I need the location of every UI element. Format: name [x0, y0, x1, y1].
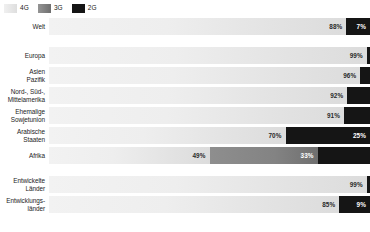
- chart-row: Europa99%1%: [0, 47, 370, 64]
- segment-value-label: 88%: [329, 23, 346, 30]
- segment-value-label: 99%: [350, 52, 367, 59]
- chart-row: ArabischeStaaten70%25%: [0, 127, 370, 144]
- stacked-bar: 92%7%: [49, 87, 370, 104]
- chart-row: Welt88%7%: [0, 18, 370, 35]
- chart-row: Afrika49%33%16%: [0, 147, 370, 164]
- stacked-bar: 91%8%: [49, 107, 370, 124]
- row-label-line: Entwicklungs-: [0, 197, 45, 204]
- chart-row: EntwickelteLänder99%1%: [0, 176, 370, 193]
- legend-item-2g: 2G: [72, 4, 97, 13]
- bar-segment-2g: 16%: [318, 147, 370, 164]
- segment-value-label: 99%: [350, 181, 367, 188]
- row-label: Welt: [0, 23, 49, 30]
- row-label: AsienPazifik: [0, 68, 49, 83]
- chart-row: AsienPazifik96%3%: [0, 67, 370, 84]
- bar-segment-4g: 85%: [49, 196, 339, 213]
- bar-segment-2g: 9%: [339, 196, 370, 213]
- row-label-line: Entwickelte: [0, 177, 45, 184]
- row-label-line: Staaten: [0, 136, 45, 143]
- bar-segment-2g: 25%: [286, 127, 370, 144]
- row-label-line: Asien: [0, 68, 45, 75]
- segment-value-label: 25%: [353, 132, 370, 139]
- legend-swatch-3g-icon: [38, 4, 51, 13]
- row-label: EhemaligeSowjetunion: [0, 108, 49, 123]
- stacked-bar: 85%9%: [49, 196, 370, 213]
- bar-segment-3g: 33%: [210, 147, 318, 164]
- stacked-bar: 99%1%: [49, 176, 370, 193]
- bar-segment-2g: 7%: [346, 18, 370, 35]
- row-label: Entwicklungs-länder: [0, 197, 49, 212]
- bar-segment-4g: 99%: [49, 176, 367, 193]
- row-label: Nord-, Süd-,Mittelamerika: [0, 88, 49, 103]
- legend-swatch-2g-icon: [72, 4, 85, 13]
- legend-item-3g: 3G: [38, 4, 63, 13]
- bar-segment-4g: 99%: [49, 47, 367, 64]
- legend-item-4g: 4G: [4, 4, 29, 13]
- bar-segment-4g: 96%: [49, 67, 360, 84]
- bar-segment-4g: 70%: [49, 127, 286, 144]
- row-label: Afrika: [0, 152, 49, 159]
- chart-row: EhemaligeSowjetunion91%8%: [0, 107, 370, 124]
- row-label: EntwickelteLänder: [0, 177, 49, 192]
- segment-value-label: 70%: [268, 132, 285, 139]
- legend-swatch-4g-icon: [4, 4, 17, 13]
- segment-value-label: 96%: [343, 72, 360, 79]
- row-label-line: Europa: [0, 52, 45, 59]
- legend-label-4g: 4G: [20, 5, 29, 12]
- row-label-line: Afrika: [0, 152, 45, 159]
- row-label-line: Arabische: [0, 128, 45, 135]
- row-label-line: Sowjetunion: [0, 116, 45, 123]
- segment-value-label: 33%: [300, 152, 317, 159]
- row-label-line: länder: [0, 205, 45, 212]
- legend-label-2g: 2G: [88, 5, 97, 12]
- row-label-line: Länder: [0, 185, 45, 192]
- row-label-line: Welt: [0, 23, 45, 30]
- chart-plot-area: Welt88%7%Europa99%1%AsienPazifik96%3%Nor…: [0, 18, 370, 232]
- bar-segment-4g: 49%: [49, 147, 210, 164]
- bar-segment-2g: 7%: [347, 87, 370, 104]
- bar-segment-2g: 8%: [344, 107, 370, 124]
- stacked-bar: 99%1%: [49, 47, 370, 64]
- chart-legend: 4G3G2G: [4, 2, 97, 15]
- segment-value-label: 9%: [357, 201, 370, 208]
- row-label: ArabischeStaaten: [0, 128, 49, 143]
- stacked-bar: 88%7%: [49, 18, 370, 35]
- segment-value-label: 85%: [322, 201, 339, 208]
- segment-value-label: 91%: [327, 112, 344, 119]
- segment-value-label: 7%: [357, 23, 370, 30]
- segment-value-label: 92%: [330, 92, 347, 99]
- stacked-bar: 49%33%16%: [49, 147, 370, 164]
- stacked-bar: 70%25%: [49, 127, 370, 144]
- row-label: Europa: [0, 52, 49, 59]
- stacked-bar: 96%3%: [49, 67, 370, 84]
- bar-segment-4g: 88%: [49, 18, 346, 35]
- bar-segment-4g: 92%: [49, 87, 347, 104]
- bar-segment-4g: 91%: [49, 107, 344, 124]
- row-label-line: Mittelamerika: [0, 96, 45, 103]
- legend-label-3g: 3G: [54, 5, 63, 12]
- chart-row: Nord-, Süd-,Mittelamerika92%7%: [0, 87, 370, 104]
- chart-row: Entwicklungs-länder85%9%: [0, 196, 370, 213]
- row-label-line: Ehemalige: [0, 108, 45, 115]
- bar-segment-2g: 3%: [360, 67, 370, 84]
- row-label-line: Nord-, Süd-,: [0, 88, 45, 95]
- row-label-line: Pazifik: [0, 76, 45, 83]
- segment-value-label: 49%: [192, 152, 209, 159]
